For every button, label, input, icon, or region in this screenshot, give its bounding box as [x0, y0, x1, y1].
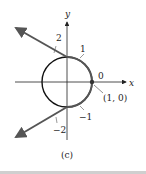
wrapped-arc-upper [67, 57, 92, 82]
point-label: (1, 0) [103, 93, 127, 103]
wrapped-arc-lower [67, 82, 92, 107]
label-neg1: −1 [79, 112, 92, 122]
label-2: 2 [56, 33, 62, 43]
tick-neg1 [80, 106, 84, 110]
tick-neg2 [56, 117, 57, 123]
bottom-divider [0, 171, 146, 174]
figure-caption: (c) [61, 150, 73, 160]
label-1: 1 [80, 44, 86, 54]
label-0: 0 [98, 71, 104, 81]
point-1-0 [90, 80, 94, 84]
y-axis-label: y [64, 9, 71, 19]
x-axis-label: x [129, 78, 134, 88]
tick-1 [80, 54, 84, 58]
point-leader [94, 85, 103, 93]
label-neg2: −2 [53, 125, 66, 135]
unit-circle-diagram: y x 0 1 2 −1 −2 (1, 0) (c) [0, 0, 146, 174]
